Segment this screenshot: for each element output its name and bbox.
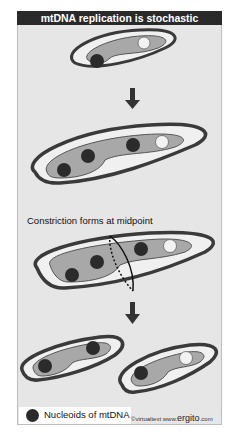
mitochondrion-initial [71,30,175,68]
empty-nucleoid [180,352,193,365]
nucleoid [38,359,52,373]
down-arrow-icon [125,88,140,109]
nucleoid [86,341,100,355]
nucleoid [65,268,79,282]
credit-prefix: ©virtualtext www. [131,416,177,422]
legend-label: Nucleoids of mtDNA [44,409,130,420]
nucleoid [126,138,140,152]
nucleoid [134,242,148,256]
nucleoid [57,163,71,177]
constriction-caption: Constriction forms at midpoint [27,215,153,226]
nucleoid-legend-icon [26,409,39,422]
credit-suffix: .com [200,416,213,422]
nucleoid [90,255,104,269]
empty-nucleoid [164,240,177,253]
mitochondrion-replicated [32,124,205,183]
legend: Nucleoids of mtDNA [19,407,131,424]
nucleoid [81,149,95,163]
credit-line: ©virtualtext www.ergito.com [131,413,213,423]
credit-brand: ergito [177,413,200,423]
mitochondrion-daughter-left [22,336,123,380]
empty-nucleoid [138,37,150,49]
mitochondrion-constriction [35,232,213,291]
empty-nucleoid [156,136,169,149]
nucleoid [134,366,148,380]
mitochondrion-daughter-right [120,344,217,392]
nucleoid [90,54,104,68]
down-arrow-icon [125,302,140,324]
